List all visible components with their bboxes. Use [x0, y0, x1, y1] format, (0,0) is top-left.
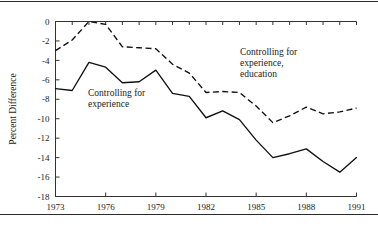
y-tick-label-neg18: -18 [38, 192, 50, 202]
y-tick-label-0: 0 [45, 17, 50, 27]
line-chart: 0-2-4-6-8-10-12-14-16-18 197319761979198… [0, 0, 378, 227]
series-line-solid [56, 62, 357, 172]
x-tick-label-1985: 1985 [247, 202, 266, 212]
y-tick-label-neg8: -8 [42, 94, 50, 104]
x-tick-label-1988: 1988 [297, 202, 316, 212]
y-tick-label-neg14: -14 [38, 153, 50, 163]
annotation-solid-line-1: Controlling for [88, 88, 146, 98]
annotation-dashed: Controlling forexperience,education [240, 47, 298, 79]
y-tick-label-neg16: -16 [38, 172, 50, 182]
annotation-dashed-line-2: experience, [240, 58, 284, 68]
annotation-dashed-line-1: Controlling for [240, 47, 298, 57]
y-tick-label-neg4: -4 [42, 56, 50, 66]
y-tick-label-neg6: -6 [42, 75, 50, 85]
y-axis-title-label: Percent Difference [8, 73, 18, 144]
x-tick-label-1991: 1991 [348, 202, 366, 212]
x-tick-labels: 1973197619791982198519881991 [47, 202, 366, 212]
y-tick-label-neg10: -10 [38, 114, 50, 124]
x-tick-label-1973: 1973 [47, 202, 66, 212]
annotation-solid: Controlling forexperience [88, 88, 146, 109]
annotation-solid-line-2: experience [88, 99, 129, 109]
y-tick-label-neg12: -12 [38, 133, 50, 143]
annotation-dashed-line-3: education [240, 69, 277, 79]
figure-container: 0-2-4-6-8-10-12-14-16-18 197319761979198… [0, 0, 378, 227]
x-tick-label-1979: 1979 [147, 202, 166, 212]
y-tick-label-neg2: -2 [42, 36, 50, 46]
x-tick-label-1976: 1976 [97, 202, 116, 212]
x-tick-label-1982: 1982 [197, 202, 215, 212]
y-tick-labels: 0-2-4-6-8-10-12-14-16-18 [38, 17, 51, 202]
y-axis-title: Percent Difference [8, 73, 18, 144]
